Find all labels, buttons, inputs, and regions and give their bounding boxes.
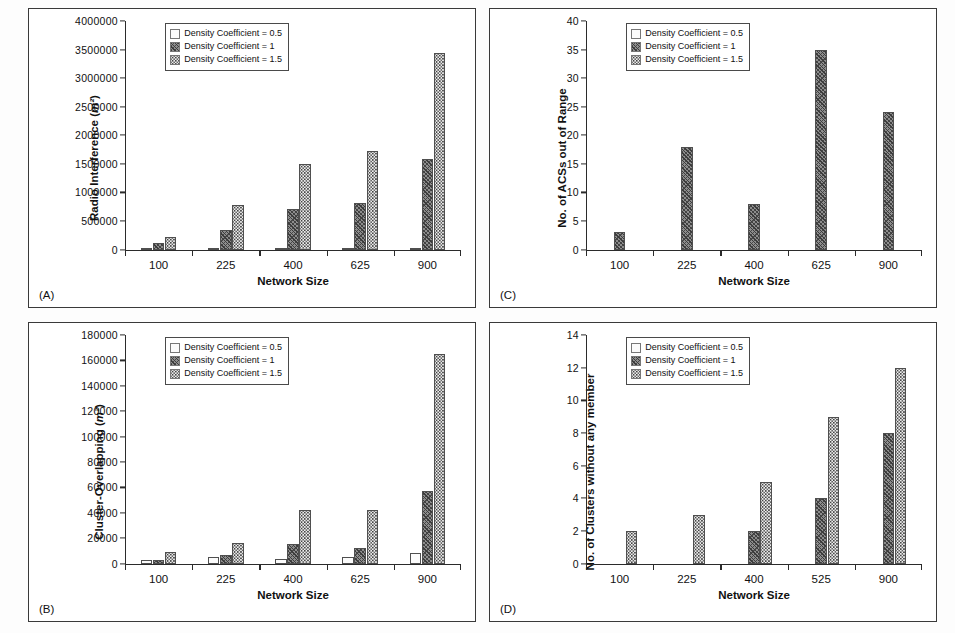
- panel-a-x-tick-mark: [460, 251, 461, 256]
- stipple-light-swatch: [631, 343, 641, 353]
- legend-item-label: Density Coefficient = 1.5: [645, 53, 743, 66]
- panel-c-x-tick-mark: [921, 251, 922, 256]
- panel-b-y-tick-mark: [120, 334, 125, 335]
- panel-b-legend: Density Coefficient = 0.5Density Coeffic…: [165, 337, 289, 385]
- panel-b-y-tick-label: 140000: [81, 380, 125, 392]
- panel-a-y-tick-label: 2000000: [75, 129, 125, 141]
- bar-b-900-series3: [434, 354, 445, 564]
- bar-b-225-series3: [232, 543, 243, 564]
- panel-a-tag: (A): [39, 289, 54, 301]
- panel-c-y-tick-mark: [581, 20, 586, 21]
- panel-c-y-tick-mark: [581, 49, 586, 50]
- panel-c-x-tick-label: 100: [610, 259, 629, 271]
- panel-c-x-tick-mark: [720, 251, 721, 256]
- panel-b-x-axis-title: Network Size: [125, 589, 461, 601]
- legend-item: Density Coefficient = 1.5: [631, 53, 743, 66]
- panel-b-x-tick-mark: [460, 565, 461, 570]
- panel-d-y-tick-mark: [581, 400, 586, 401]
- figure-four-panel-bar-charts: Radio Interference (m²) 0500000100000015…: [0, 0, 955, 633]
- panel-b-y-axis-title: Cluster-Overlapping (m²): [93, 404, 105, 539]
- panel-c-y-tick-mark: [581, 78, 586, 79]
- bar-b-100-series2: [153, 560, 164, 564]
- panel-b-y-tick-mark: [120, 436, 125, 437]
- legend-item-label: Density Coefficient = 0.5: [184, 27, 282, 40]
- panel-d-y-tick-mark: [581, 432, 586, 433]
- panel-b-y-tick-mark: [120, 538, 125, 539]
- panel-a-y-tick-mark: [120, 220, 125, 221]
- panel-d-y-tick-mark: [581, 498, 586, 499]
- legend-item: Density Coefficient = 1: [631, 354, 743, 367]
- legend-item: Density Coefficient = 1.5: [170, 53, 282, 66]
- bar-c-100-series2: [614, 232, 625, 249]
- panel-d-tag: (D): [500, 603, 516, 615]
- bar-d-400-series2: [748, 531, 759, 564]
- panel-d-x-tick-label: 400: [744, 573, 763, 585]
- panel-d-x-tick-mark: [720, 565, 721, 570]
- bar-a-400-series1: [275, 248, 286, 250]
- hatch-dark-swatch: [170, 42, 180, 52]
- legend-item-label: Density Coefficient = 1: [645, 354, 735, 367]
- panel-b-y-tick-label: 160000: [81, 354, 125, 366]
- panel-a-y-tick-mark: [120, 163, 125, 164]
- bar-c-625-series2: [815, 50, 826, 250]
- panel-c-y-tick-mark: [581, 220, 586, 221]
- panel-d-y-tick-mark: [581, 367, 586, 368]
- panel-a-x-tick-mark: [125, 251, 126, 256]
- panel-b-tag: (B): [39, 603, 54, 615]
- panel-d-y-tick-mark: [581, 530, 586, 531]
- bar-d-400-series3: [760, 482, 771, 564]
- bar-a-225-series2: [220, 230, 231, 249]
- panel-d-y-tick-mark: [581, 465, 586, 466]
- stipple-mid-swatch: [170, 55, 180, 65]
- panel-a-x-tick-mark: [394, 251, 395, 256]
- bar-a-625-series2: [354, 203, 365, 250]
- bar-b-625-series3: [367, 510, 378, 564]
- panel-b-plot-area: 0200004000060000800001000001200001400001…: [125, 335, 461, 565]
- panel-c-y-tick-mark: [581, 135, 586, 136]
- bar-a-900-series3: [434, 53, 445, 250]
- bar-a-900-series2: [422, 159, 433, 250]
- panel-b-y-tick-mark: [120, 512, 125, 513]
- bar-c-900-series2: [883, 112, 894, 249]
- bar-a-400-series3: [299, 164, 310, 250]
- panel-d: No. of Clusters without any member 02468…: [489, 322, 937, 622]
- legend-item: Density Coefficient = 1: [170, 40, 282, 53]
- panel-b-x-tick-mark: [125, 565, 126, 570]
- bar-a-225-series3: [232, 205, 243, 250]
- panel-a-x-tick-label: 100: [149, 259, 168, 271]
- bar-b-400-series1: [275, 559, 286, 563]
- panel-c-y-tick-mark: [581, 163, 586, 164]
- bar-a-625-series1: [342, 248, 353, 250]
- bar-b-225-series2: [220, 555, 231, 563]
- panel-a-x-tick-mark: [327, 251, 328, 256]
- panel-d-y-tick-mark: [581, 334, 586, 335]
- panel-c-tag: (C): [500, 289, 516, 301]
- panel-d-x-tick-label: 525: [812, 573, 831, 585]
- panel-d-x-tick-mark: [855, 565, 856, 570]
- panel-c-x-tick-mark: [653, 251, 654, 256]
- panel-a-y-tick-mark: [120, 78, 125, 79]
- panel-b-x-axis-line: [125, 564, 461, 565]
- panel-a-x-tick-mark: [192, 251, 193, 256]
- bar-c-400-series2: [748, 204, 759, 250]
- panel-c-y-tick-mark: [581, 192, 586, 193]
- panel-b-x-tick-mark: [327, 565, 328, 570]
- panel-c-y-axis-line: [586, 21, 587, 251]
- bar-a-100-series1: [141, 248, 152, 250]
- panel-d-x-tick-mark: [586, 565, 587, 570]
- panel-c-plot-area: 0510152025303540100225400625900Density C…: [586, 21, 922, 251]
- panel-a-y-tick-mark: [120, 192, 125, 193]
- stipple-light-swatch: [631, 29, 641, 39]
- legend-item: Density Coefficient = 1: [631, 40, 743, 53]
- bar-d-225-series3: [693, 515, 704, 564]
- panel-d-legend: Density Coefficient = 0.5Density Coeffic…: [626, 337, 750, 385]
- legend-item: Density Coefficient = 0.5: [631, 341, 743, 354]
- stipple-light-swatch: [170, 343, 180, 353]
- legend-item: Density Coefficient = 0.5: [170, 27, 282, 40]
- panel-a-y-tick-mark: [120, 106, 125, 107]
- panel-a-y-tick-label: 1500000: [75, 158, 125, 170]
- bar-b-100-series1: [141, 560, 152, 563]
- bar-b-900-series1: [410, 553, 421, 563]
- panel-b-y-tick-label: 180000: [81, 329, 125, 341]
- panel-c-x-axis-title: Network Size: [586, 275, 922, 287]
